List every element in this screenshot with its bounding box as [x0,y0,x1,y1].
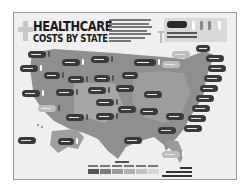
state-bubble [88,87,106,94]
state-bubble [96,99,114,106]
state-bubble [62,59,80,66]
person-icon [76,89,78,95]
person-icon [200,21,203,30]
state-bubble-hawaii [18,137,36,144]
legend-label [88,165,98,167]
person-icon [158,59,160,65]
person-icon [62,72,64,78]
poster-subtitle: COSTS BY STATE [33,34,108,44]
state-bubble [66,114,84,121]
state-bubble [200,85,218,92]
state-bubble [206,55,224,62]
person-icon [58,105,60,111]
person-icon [48,51,50,57]
state-bubble [144,91,162,98]
how-to-read-key [164,18,227,42]
state-bubble [124,137,142,144]
state-bubble [166,113,184,120]
state-bubble [116,85,134,92]
state-bubble [196,45,210,52]
person-icon [82,59,84,65]
state-bubble [22,90,40,97]
legend-label [148,165,158,167]
state-bubble [94,75,110,82]
person-icon [86,76,88,82]
person-icon [76,138,78,144]
state-bubble [172,51,190,58]
state-bubble [192,105,210,112]
state-bubble [134,59,156,66]
state-bubble [204,75,222,82]
state-bubble [162,151,180,158]
state-bubble [184,125,202,132]
person-icon [112,75,114,81]
person-icon [108,87,110,93]
legend-swatch [136,169,147,174]
person-icon [116,113,118,119]
state-bubble [196,95,214,102]
person-icon [182,151,184,157]
person-icon [40,65,42,71]
person-icon [116,99,118,105]
legend-label [124,165,134,167]
state-bubble [140,108,158,115]
connector-line [160,33,162,43]
state-bubble [91,56,109,63]
legend-swatch [100,169,111,174]
state-bubble [20,65,38,72]
legend-label [136,165,146,167]
legend-swatch [112,169,123,174]
infographic-poster: HEALTHCARE COSTS BY STATE [13,12,237,180]
legend-swatch [124,169,135,174]
legend-label [112,165,122,167]
state-bubble [96,113,114,120]
key-caption [167,32,197,34]
state-bubble [208,65,226,72]
person-icon [192,21,195,30]
person-icon [208,21,211,30]
legend-label [100,165,110,167]
person-icon [42,90,44,96]
legend-swatch [148,169,159,174]
state-bubble [162,61,180,68]
state-bubble [118,106,136,113]
medical-cross-icon-bar [18,27,33,32]
intro-paragraph [109,19,153,45]
person-icon [218,21,221,30]
state-bubble [158,127,176,134]
person-icon [86,114,88,120]
legend-title [115,161,129,163]
state-bubble-alaska [58,138,74,145]
state-bubble [188,115,206,122]
state-bubble [44,72,60,79]
poster-title: HEALTHCARE [33,19,112,33]
state-bubble [28,51,46,58]
legend-swatch [88,169,99,174]
person-icon [111,56,113,62]
state-bubble [38,105,56,112]
key-caption [167,36,197,38]
state-bubble [56,89,74,96]
state-bubble [122,72,138,79]
key-sample-bubble [167,21,187,28]
state-bubble [68,76,84,83]
